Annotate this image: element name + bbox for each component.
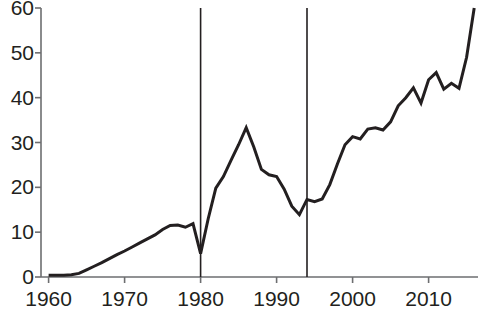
y-axis-tick-label: 0 — [0, 266, 34, 287]
data-series-line — [49, 8, 475, 275]
y-axis-ticks — [35, 8, 41, 277]
x-axis-tick-label: 1970 — [90, 288, 160, 309]
y-axis-tick-label: 50 — [0, 42, 34, 63]
x-axis-tick-label: 2000 — [318, 288, 388, 309]
y-axis-tick-label: 30 — [0, 132, 34, 153]
x-axis-tick-label: 1980 — [166, 288, 236, 309]
y-axis-tick-label: 20 — [0, 176, 34, 197]
y-axis-tick-label: 10 — [0, 221, 34, 242]
x-axis-tick-label: 2010 — [394, 288, 464, 309]
reference-vertical-lines — [201, 8, 307, 277]
chart-plot-area — [0, 0, 484, 325]
y-axis-tick-label: 60 — [0, 0, 34, 18]
x-axis-tick-label: 1960 — [14, 288, 84, 309]
x-axis-ticks — [49, 277, 429, 283]
x-axis-tick-label: 1990 — [242, 288, 312, 309]
y-axis-tick-label: 40 — [0, 87, 34, 108]
line-chart: 0102030405060 196019701980199020002010 — [0, 0, 484, 325]
